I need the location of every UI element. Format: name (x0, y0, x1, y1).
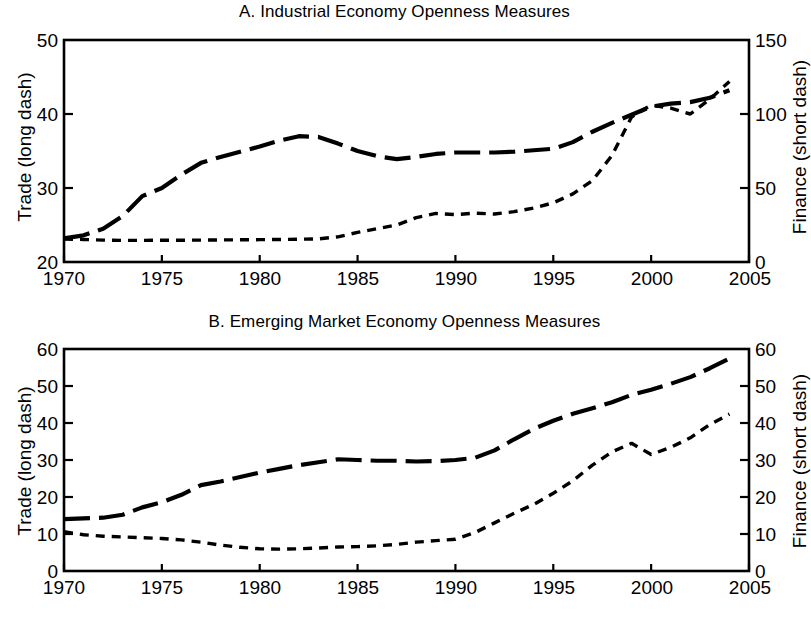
panel-a-industrial-economy: A. Industrial Economy Openness Measures … (0, 0, 809, 310)
series-trade (64, 359, 729, 520)
series-finance (64, 414, 729, 549)
panel-a-plot-area (0, 0, 809, 310)
panel-b-emerging-market-economy: B. Emerging Market Economy Openness Meas… (0, 310, 809, 618)
panel-b-plot-area (0, 310, 809, 618)
series-trade (64, 90, 729, 238)
axis-frame (64, 40, 749, 262)
